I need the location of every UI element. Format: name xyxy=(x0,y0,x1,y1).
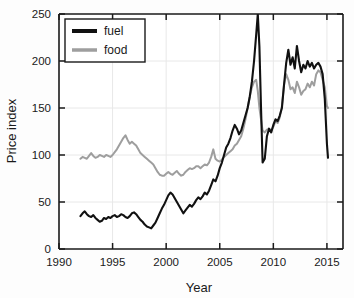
chart-figure: 050100150200250199019952000200520102015 … xyxy=(0,0,354,298)
x-axis-title: Year xyxy=(186,280,213,295)
y-tick-label: 50 xyxy=(38,196,51,208)
y-tick-label: 150 xyxy=(32,102,51,114)
legend-label-food: food xyxy=(104,43,127,57)
y-tick-label: 0 xyxy=(45,243,51,255)
x-tick-label: 2010 xyxy=(261,256,287,268)
x-tick-label: 2005 xyxy=(207,256,233,268)
x-tick-label: 2000 xyxy=(153,256,179,268)
y-axis-title: Price index xyxy=(4,98,19,163)
y-tick-label: 100 xyxy=(32,149,51,161)
x-tick-label: 2015 xyxy=(314,256,340,268)
x-tick-label: 1990 xyxy=(46,256,72,268)
y-tick-label: 250 xyxy=(32,8,51,20)
legend-label-fuel: fuel xyxy=(104,24,123,38)
x-tick-label: 1995 xyxy=(100,256,126,268)
chart-legend: fuel food xyxy=(65,19,145,62)
line-chart-svg: 050100150200250199019952000200520102015 … xyxy=(0,0,354,298)
right-mask xyxy=(343,0,354,298)
y-tick-label: 200 xyxy=(32,55,51,67)
